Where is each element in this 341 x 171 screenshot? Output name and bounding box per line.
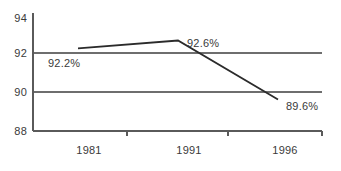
y-tick-label-88: 88 (14, 125, 27, 137)
y-tick-label-92: 92 (14, 47, 27, 59)
x-category-label-1981: 1981 (76, 144, 101, 156)
y-tick-label-90: 90 (14, 86, 27, 98)
x-category-label-1991: 1991 (176, 144, 201, 156)
x-category-label-1996: 1996 (272, 144, 297, 156)
data-label-1981: 92.2% (48, 57, 80, 69)
y-tick-label-94: 94 (14, 12, 27, 24)
data-label-1996: 89.6% (286, 100, 318, 112)
chart-canvas: 94 92 90 88 1981 1991 1996 92.2% 92.6% 8… (0, 0, 341, 171)
data-label-1991: 92.6% (187, 37, 219, 49)
line-chart-figure: 94 92 90 88 1981 1991 1996 92.2% 92.6% 8… (0, 0, 341, 171)
